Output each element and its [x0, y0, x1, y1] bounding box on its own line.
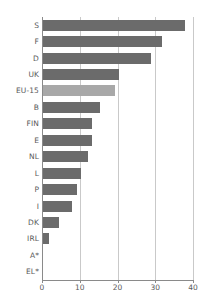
- category-label: EU-15: [0, 86, 39, 95]
- category-label: DK: [0, 218, 39, 227]
- bar-i: [43, 201, 72, 212]
- category-label: D: [0, 54, 39, 63]
- category-label: UK: [0, 70, 39, 79]
- category-label: B: [0, 103, 39, 112]
- bar-nl: [43, 151, 88, 162]
- plot-area: [42, 17, 193, 280]
- category-axis-labels: SFDUKEU-15BFINENLLPIDKIRLA*EL*: [0, 17, 39, 280]
- bar-f: [43, 36, 162, 47]
- bar-irl: [43, 233, 49, 244]
- bar-dk: [43, 217, 59, 228]
- bar-e: [43, 135, 92, 146]
- category-label: F: [0, 37, 39, 46]
- value-tick-label: 0: [40, 283, 45, 293]
- bar-eu-15: [43, 85, 115, 96]
- category-label: NL: [0, 152, 39, 161]
- category-label: EL*: [0, 267, 39, 276]
- value-tick-label: 10: [75, 283, 85, 293]
- category-label: FIN: [0, 119, 39, 128]
- bar-l: [43, 168, 81, 179]
- category-label: L: [0, 169, 39, 178]
- value-tick-label: 40: [188, 283, 198, 293]
- category-label: I: [0, 202, 39, 211]
- category-label: P: [0, 185, 39, 194]
- bar-p: [43, 184, 77, 195]
- category-label: A*: [0, 251, 39, 260]
- category-label: S: [0, 21, 39, 30]
- bar-b: [43, 102, 100, 113]
- category-label: E: [0, 136, 39, 145]
- bar-s: [43, 20, 185, 31]
- gridline: [155, 17, 156, 280]
- value-axis-tick-labels: 010203040: [0, 283, 208, 297]
- bar-chart: SFDUKEU-15BFINENLLPIDKIRLA*EL* 010203040: [0, 0, 208, 308]
- bar-d: [43, 53, 151, 64]
- value-tick-label: 30: [150, 283, 160, 293]
- gridline: [193, 17, 194, 280]
- bar-fin: [43, 118, 92, 129]
- value-tick-label: 20: [113, 283, 123, 293]
- category-label: IRL: [0, 234, 39, 243]
- bar-uk: [43, 69, 119, 80]
